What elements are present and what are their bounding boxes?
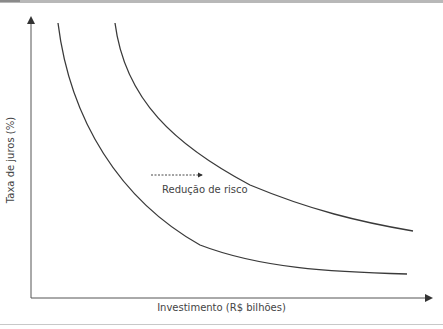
curve-initial <box>58 23 407 274</box>
curve-shifted <box>115 23 413 231</box>
x-axis-label: Investimento (R$ bilhões) <box>0 302 443 313</box>
annotation-risk-reduction: Redução de risco <box>162 184 248 195</box>
chart-canvas <box>0 0 443 329</box>
bottom-divider <box>0 324 443 325</box>
y-axis-label: Taxa de juros (%) <box>5 117 16 203</box>
